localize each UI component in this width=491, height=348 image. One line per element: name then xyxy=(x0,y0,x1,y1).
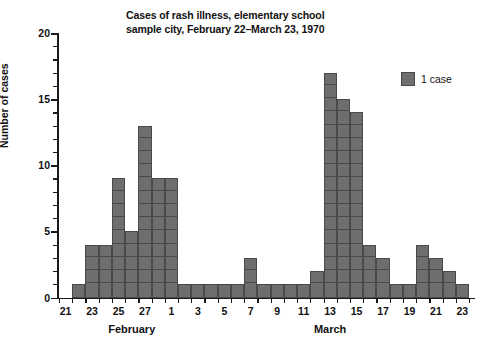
bar-cell-divider xyxy=(338,124,349,125)
y-tick-minor xyxy=(53,192,57,193)
x-tick xyxy=(231,299,232,303)
y-tick-minor xyxy=(53,284,57,285)
bar-cell-divider xyxy=(351,203,362,204)
bar-cell-divider xyxy=(139,176,150,177)
x-tick xyxy=(310,299,311,303)
bar xyxy=(429,258,442,298)
x-tick xyxy=(429,299,430,303)
bar xyxy=(165,178,178,297)
x-tick xyxy=(152,299,153,303)
bar xyxy=(125,231,138,297)
bar-cell-divider xyxy=(166,243,177,244)
x-tick xyxy=(403,299,404,303)
bar-cell-divider xyxy=(417,269,428,270)
bar xyxy=(257,284,270,297)
bar xyxy=(112,178,125,297)
x-tick xyxy=(178,299,179,303)
bar-cell-divider xyxy=(166,229,177,230)
bar-cell-divider xyxy=(153,216,164,217)
bar-cell-divider xyxy=(166,256,177,257)
bar xyxy=(152,178,165,297)
bar xyxy=(271,284,284,297)
y-tick-minor xyxy=(53,112,57,113)
x-tick-label: 5 xyxy=(221,305,227,317)
x-tick xyxy=(125,299,126,303)
bar-cell-divider xyxy=(139,203,150,204)
x-tick xyxy=(297,299,298,303)
bar-cell-divider xyxy=(153,243,164,244)
legend: 1 case xyxy=(401,72,452,86)
bar xyxy=(85,245,98,298)
bar xyxy=(390,284,403,297)
bar-cell-divider xyxy=(325,243,336,244)
y-tick-minor xyxy=(53,86,57,87)
y-tick-minor xyxy=(53,73,57,74)
x-tick xyxy=(324,299,325,303)
x-tick xyxy=(204,299,205,303)
bar-cell-divider xyxy=(166,203,177,204)
x-tick xyxy=(456,299,457,303)
bar-cell-divider xyxy=(351,190,362,191)
x-tick xyxy=(443,299,444,303)
x-tick-label: 11 xyxy=(298,305,309,317)
bar-cell-divider xyxy=(338,163,349,164)
bar-cell-divider xyxy=(86,256,97,257)
bar-cell-divider xyxy=(430,269,441,270)
bar-cell-divider xyxy=(325,269,336,270)
bar-cell-divider xyxy=(338,256,349,257)
y-tick-minor xyxy=(53,178,57,179)
bar-cell-divider xyxy=(351,124,362,125)
bar-cell-divider xyxy=(113,243,124,244)
bar-cell-divider xyxy=(166,282,177,283)
bar-cell-divider xyxy=(338,229,349,230)
y-tick-label: 10 xyxy=(38,159,50,171)
bar xyxy=(72,284,85,297)
y-tick-minor xyxy=(53,245,57,246)
bar-cell-divider xyxy=(351,163,362,164)
bar-cell-divider xyxy=(364,256,375,257)
x-tick-label: 23 xyxy=(457,305,469,317)
y-tick-major xyxy=(51,298,57,300)
bar-cell-divider xyxy=(417,282,428,283)
y-tick-label: 20 xyxy=(38,27,50,39)
y-tick-minor xyxy=(53,126,57,127)
x-tick xyxy=(165,299,166,303)
bar-cell-divider xyxy=(139,163,150,164)
x-tick-label: 21 xyxy=(60,305,72,317)
bar-cell-divider xyxy=(311,282,322,283)
bar xyxy=(231,284,244,297)
bar-cell-divider xyxy=(325,256,336,257)
y-tick-label: 15 xyxy=(38,93,50,105)
bar-cell-divider xyxy=(338,190,349,191)
y-tick-minor xyxy=(53,205,57,206)
bar-cell-divider xyxy=(325,216,336,217)
y-tick-minor xyxy=(53,258,57,259)
bar-cell-divider xyxy=(139,216,150,217)
bar xyxy=(284,284,297,297)
legend-swatch-1-case xyxy=(401,72,415,86)
bar-cell-divider xyxy=(364,282,375,283)
x-tick xyxy=(257,299,258,303)
bar-cell-divider xyxy=(100,269,111,270)
x-tick xyxy=(244,299,245,303)
bar-cell-divider xyxy=(338,243,349,244)
bar-cell-divider xyxy=(113,216,124,217)
bar xyxy=(324,73,337,298)
y-tick-major xyxy=(51,99,57,101)
bar-cell-divider xyxy=(444,282,455,283)
y-tick-minor xyxy=(53,139,57,140)
bar-cell-divider xyxy=(113,203,124,204)
bar-cell-divider xyxy=(166,190,177,191)
y-tick-label: 0 xyxy=(44,292,50,304)
bar-cell-divider xyxy=(139,256,150,257)
bar-cell-divider xyxy=(153,282,164,283)
x-tick xyxy=(99,299,100,303)
bar-cell-divider xyxy=(325,282,336,283)
bar-cell-divider xyxy=(166,216,177,217)
bar-cell-divider xyxy=(153,203,164,204)
x-tick xyxy=(469,299,470,303)
bar-cell-divider xyxy=(338,269,349,270)
bar-cell-divider xyxy=(338,110,349,111)
bar-cell-divider xyxy=(417,256,428,257)
bar xyxy=(297,284,310,297)
